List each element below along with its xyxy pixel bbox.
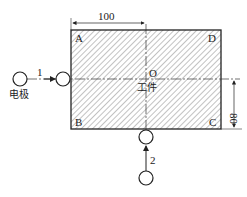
corner-a-label: A [75, 32, 83, 44]
electrode-contact-left [56, 72, 70, 86]
move-2-label: 2 [150, 154, 156, 166]
electrode-contact-bottom [139, 130, 153, 144]
workpiece-label: 工件 [137, 82, 157, 93]
corner-d-label: D [208, 32, 216, 44]
width-dimension-label: 100 [98, 10, 115, 22]
corner-b-label: B [75, 116, 82, 128]
diagram-canvas: 100 80 A D B C O 工件 1 电极 2 [0, 0, 247, 197]
height-dimension-label: 80 [228, 113, 240, 125]
center-o-label: O [149, 67, 157, 79]
corner-c-label: C [209, 116, 216, 128]
electrode-start-bottom [139, 171, 153, 185]
electrode-start-left [13, 72, 27, 86]
electrode-label: 电极 [9, 88, 29, 100]
move-1-label: 1 [37, 66, 43, 78]
